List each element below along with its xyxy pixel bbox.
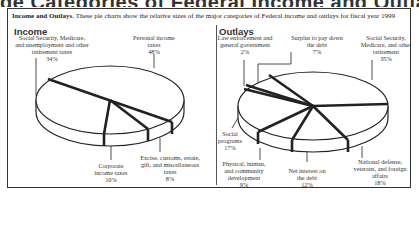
label-pct: 18% [350,179,410,186]
label-pct: 10% [90,176,132,183]
outlays-label-law-enforcement: Law enforcement and general government 2… [216,34,274,55]
label-line: taxes [130,41,178,48]
label-pct: 48% [130,48,178,55]
label-pct: 9% [220,181,268,188]
label-line: National defense, [350,158,410,165]
label-line: the debt [290,41,344,48]
label-pct: 2% [216,48,274,55]
income-label-social-security: Social Security, Medicare, and unemploym… [14,34,90,62]
label-line: Surplus to pay down [290,34,344,41]
income-pie [36,54,184,160]
label-line: Medicare, and other [360,41,412,48]
income-label-excise: Excise, customs, estate, gift, and misce… [137,154,203,182]
label-line: the debt [285,174,329,181]
outlays-label-physical-human: Physical, human, and community developme… [220,160,268,188]
label-line: Law enforcement and [216,34,274,41]
label-line: taxes [137,168,203,175]
label-line: development [220,174,268,181]
label-line: retirement [360,48,412,55]
income-label-personal-income: Personal income taxes 48% [130,34,178,55]
label-line: and community [220,167,268,174]
label-line: and unemployment and other [14,41,90,48]
label-line: Social Security, Medicare, [14,34,90,41]
label-line: Social Security, [360,34,412,41]
income-label-corporate: Corporate income taxes 10% [90,162,132,183]
label-line: general government [216,41,274,48]
label-pct: 12% [285,181,329,188]
outlays-label-social-security: Social Security, Medicare, and other ret… [360,34,412,62]
outlays-label-surplus: Surplus to pay down the debt 7% [290,34,344,55]
label-pct: 7% [290,48,344,55]
label-line: programs [214,137,246,144]
outlays-label-national-defense: National defense, veterans, and foreign … [350,158,410,186]
label-line: affairs [350,172,410,179]
label-line: Corporate [90,162,132,169]
label-pct: 35% [360,55,412,62]
outlays-label-net-interest: Net interest on the debt 12% [285,167,329,188]
label-pct: 17% [214,144,246,151]
label-line: retirement taxes [14,48,90,55]
outlays-pie [232,52,388,162]
label-line: Excise, customs, estate, [137,154,203,161]
label-line: Physical, human, [220,160,268,167]
label-line: veterans, and foreign [350,165,410,172]
label-line: income taxes [90,169,132,176]
label-line: Net interest on [285,167,329,174]
label-pct: 8% [137,175,203,182]
outlays-label-social-programs: Social programs 17% [214,130,246,151]
label-line: gift, and miscellaneous [137,161,203,168]
label-pct: 34% [14,55,90,62]
label-line: Social [214,130,246,137]
label-line: Personal income [130,34,178,41]
